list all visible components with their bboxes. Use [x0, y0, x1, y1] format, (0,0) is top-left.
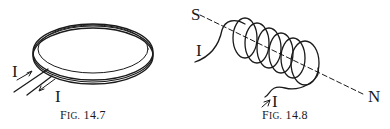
north-pole-label: N [368, 88, 380, 105]
figure-caption: FIG. 14.7 [60, 108, 106, 123]
current-in-label: I [196, 42, 202, 59]
figure-canvas: I I FIG. 14.7 S I N I FIG. 14.8 [0, 0, 390, 129]
south-pole-label: S [191, 6, 200, 23]
current-out-label: I [55, 88, 61, 105]
figure-caption: FIG. 14.8 [262, 108, 308, 123]
flat-coil-icon [14, 24, 153, 95]
solenoid-icon [195, 15, 365, 107]
current-in-label: I [12, 63, 18, 80]
